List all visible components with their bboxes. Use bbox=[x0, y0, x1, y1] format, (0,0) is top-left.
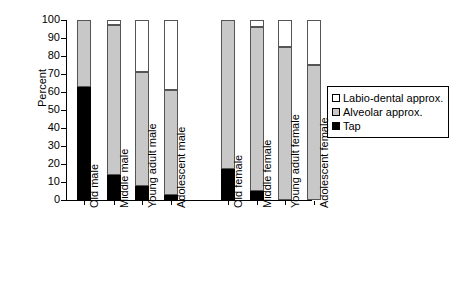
x-axis-tick-mark bbox=[171, 201, 172, 205]
legend-item-label: Alveolar approx. bbox=[343, 106, 423, 118]
y-axis-tick-label: 80 bbox=[20, 50, 60, 61]
bar-segment-alveolar-approx bbox=[221, 20, 235, 169]
y-axis-tick-mark bbox=[61, 38, 66, 39]
x-axis-label-young-adult-male: Young adult male bbox=[147, 123, 158, 208]
x-axis-label-middle-male: Middle male bbox=[119, 149, 130, 208]
x-axis-tick-mark bbox=[314, 201, 315, 205]
y-axis-tick-label: 30 bbox=[20, 140, 60, 151]
x-axis-label-adolescent-male: Adolescent male bbox=[176, 127, 187, 208]
bar-segment-labio-dental-approx bbox=[135, 20, 149, 72]
legend-item-alveolar-approx[interactable]: Alveolar approx. bbox=[332, 105, 443, 119]
chart-legend: Labio-dental approx.Alveolar approx.Tap bbox=[327, 86, 449, 138]
y-axis-tick-mark bbox=[61, 92, 66, 93]
x-axis-label-adolescent-female: Adolescent female bbox=[319, 118, 330, 209]
white-square-icon bbox=[332, 94, 340, 102]
x-axis-tick-mark bbox=[228, 201, 229, 205]
y-axis-tick-label: 0 bbox=[20, 194, 60, 205]
y-axis-tick-mark bbox=[61, 56, 66, 57]
bar-segment-labio-dental-approx bbox=[164, 20, 178, 90]
y-axis-tick-mark bbox=[61, 164, 66, 165]
y-axis-tick-label: 20 bbox=[20, 158, 60, 169]
x-axis-label-middle-female: Middle female bbox=[262, 140, 273, 208]
legend-item-label: Tap bbox=[343, 120, 361, 132]
y-axis-tick-mark bbox=[61, 146, 66, 147]
y-axis-tick-label: 70 bbox=[20, 68, 60, 79]
y-axis-tick-mark bbox=[61, 110, 66, 111]
x-axis-label-old-female: Old female bbox=[233, 155, 244, 208]
bar-segment-labio-dental-approx bbox=[250, 20, 264, 27]
y-axis-tick-label: 40 bbox=[20, 122, 60, 133]
bar-segment-labio-dental-approx bbox=[307, 20, 321, 65]
y-axis-tick-mark bbox=[61, 200, 66, 201]
y-axis-tick-label: 60 bbox=[20, 86, 60, 97]
x-axis-tick-mark bbox=[285, 201, 286, 205]
y-axis-tick-mark bbox=[61, 128, 66, 129]
legend-item-label: Labio-dental approx. bbox=[343, 92, 443, 104]
x-axis-line bbox=[66, 200, 312, 201]
y-axis-tick-labels: 0102030405060708090100 bbox=[12, 0, 60, 302]
plot-area bbox=[66, 20, 311, 200]
x-axis-tick-mark bbox=[257, 201, 258, 205]
y-axis-tick-label: 10 bbox=[20, 176, 60, 187]
x-axis-tick-mark bbox=[142, 201, 143, 205]
black-square-icon bbox=[332, 122, 340, 130]
y-axis-tick-mark bbox=[61, 20, 66, 21]
x-axis-tick-mark bbox=[84, 201, 85, 205]
gray-square-icon bbox=[332, 108, 340, 116]
y-axis-tick-mark bbox=[61, 74, 66, 75]
x-axis-label-young-adult-female: Young adult female bbox=[290, 114, 301, 208]
bar-segment-labio-dental-approx bbox=[107, 20, 121, 25]
bar-segment-labio-dental-approx bbox=[278, 20, 292, 47]
stacked-bar-chart-figure: Percent 0102030405060708090100 Labio-den… bbox=[0, 0, 457, 302]
y-axis-tick-label: 90 bbox=[20, 32, 60, 43]
legend-item-tap[interactable]: Tap bbox=[332, 119, 443, 133]
y-axis-tick-label: 100 bbox=[20, 14, 60, 25]
x-axis-label-old-male: Old male bbox=[89, 164, 100, 208]
y-axis-tick-label: 50 bbox=[20, 104, 60, 115]
y-axis-tick-mark bbox=[61, 182, 66, 183]
x-axis-tick-mark bbox=[114, 201, 115, 205]
legend-item-labio-dental-approx[interactable]: Labio-dental approx. bbox=[332, 91, 443, 105]
bar-segment-alveolar-approx bbox=[77, 20, 91, 87]
